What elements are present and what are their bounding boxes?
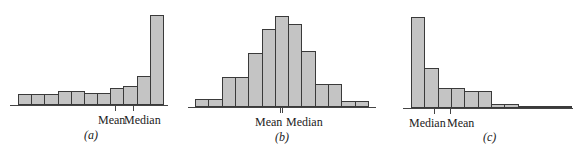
median-tick-c — [434, 109, 435, 114]
histogram-bar — [491, 104, 505, 108]
histogram-bar — [451, 88, 465, 108]
caption-c: (c) — [483, 131, 496, 143]
histogram-bar — [424, 68, 438, 108]
histogram-bar — [518, 106, 532, 108]
histogram-bar — [504, 104, 518, 108]
histogram-bar — [531, 106, 545, 108]
histogram-bar — [558, 106, 572, 108]
histogram-bar — [478, 91, 492, 108]
x-axis-c — [403, 108, 573, 109]
median-label-c: Median — [409, 117, 446, 129]
histogram-bar — [464, 91, 478, 108]
histogram-c: Median Mean (c) — [0, 0, 584, 155]
plot-area-c — [411, 0, 571, 108]
histogram-bar — [411, 17, 425, 108]
mean-tick-c — [450, 109, 451, 114]
mean-label-c: Mean — [447, 117, 474, 129]
histogram-bar — [438, 88, 452, 108]
histogram-bar — [544, 106, 558, 108]
